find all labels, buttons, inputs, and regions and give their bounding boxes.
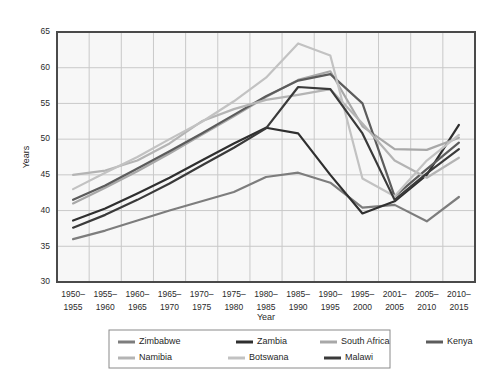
legend-label: Zambia [257,336,287,346]
legend-label: Namibia [139,352,172,362]
y-axis-title: Years [21,145,31,168]
x-tick-label-top: 2001– [383,289,407,299]
y-tick-label: 30 [41,276,51,286]
x-tick-label-bottom: 2005 [385,302,404,312]
x-tick-label-top: 1980– [254,289,278,299]
legend-label: Kenya [447,336,473,346]
plot-area-background [57,32,475,282]
x-tick-label-top: 2005– [415,289,439,299]
x-tick-label-top: 1955– [93,289,117,299]
x-tick-label-top: 1960– [126,289,150,299]
y-tick-label: 50 [41,133,51,143]
x-tick-label-top: 1985– [286,289,310,299]
x-tick-label-top: 1965– [158,289,182,299]
y-tick-label: 40 [41,205,51,215]
x-tick-label-bottom: 1970 [160,302,179,312]
y-tick-label: 35 [41,241,51,251]
x-tick-label-bottom: 1995 [321,302,340,312]
x-axis-title: Year [257,312,275,322]
x-tick-label-bottom: 2010 [417,302,436,312]
legend-label: Malawi [345,352,373,362]
x-tick-label-bottom: 1980 [224,302,243,312]
x-tick-label-top: 1950– [61,289,85,299]
chart-canvas: 3035404550556065 1950–19551955–19601960–… [0,0,489,372]
x-tick-label-top: 1975– [222,289,246,299]
x-tick-label-bottom: 1965 [128,302,147,312]
legend-label: Zimbabwe [139,336,181,346]
x-tick-label-bottom: 1975 [192,302,211,312]
y-tick-label: 60 [41,62,51,72]
x-tick-label-top: 2010– [447,289,471,299]
y-tick-label: 55 [41,98,51,108]
x-tick-label-bottom: 1990 [289,302,308,312]
x-tick-label-bottom: 1985 [257,302,276,312]
legend-label: Botswana [249,352,289,362]
x-tick-label-bottom: 1955 [64,302,83,312]
y-tick-label: 45 [41,169,51,179]
y-tick-label: 65 [41,26,51,36]
legend-label: South Africa [341,336,390,346]
x-tick-label-top: 1970– [190,289,214,299]
x-tick-label-top: 1990– [318,289,342,299]
x-tick-label-top: 1995– [351,289,375,299]
x-tick-label-bottom: 2015 [449,302,468,312]
life-expectancy-line-chart: 3035404550556065 1950–19551955–19601960–… [0,0,489,372]
x-tick-label-bottom: 1960 [96,302,115,312]
x-tick-label-bottom: 2000 [353,302,372,312]
